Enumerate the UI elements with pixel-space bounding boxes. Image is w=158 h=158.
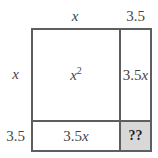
cell-unknown: ?? <box>119 120 150 150</box>
row-header-3-5-text: 3.5 <box>6 128 25 144</box>
column-header-3-5-text: 3.5 <box>126 8 145 24</box>
row-header-3-5: 3.5 <box>0 120 31 152</box>
cell-x-squared-base: x <box>70 67 77 83</box>
cell-top-right-text: 3.5x <box>123 67 148 84</box>
cell-bottom-left-coefficient: 3.5 <box>63 128 82 144</box>
cell-bottom-left: 3.5x <box>33 120 119 150</box>
column-header-x-text: x <box>72 8 79 24</box>
cell-x-squared: x2 <box>33 30 119 120</box>
cell-unknown-text: ?? <box>129 128 143 144</box>
column-header-x: x <box>31 6 119 26</box>
cell-top-right: 3.5x <box>119 30 150 120</box>
column-header-3-5: 3.5 <box>119 6 152 26</box>
row-header-x: x <box>0 28 31 120</box>
cell-bottom-left-variable: x <box>82 128 89 144</box>
area-model-diagram: x 3.5 x 3.5 x2 3.5x 3.5x ?? <box>0 0 158 158</box>
cell-x-squared-text: x2 <box>70 67 82 84</box>
row-header-x-text: x <box>12 66 19 82</box>
cell-bottom-left-text: 3.5x <box>63 128 88 145</box>
cell-top-right-coefficient: 3.5 <box>123 67 142 83</box>
cell-top-right-variable: x <box>142 67 149 83</box>
cell-x-squared-exponent: 2 <box>77 65 82 76</box>
area-model-grid: x2 3.5x 3.5x ?? <box>31 28 152 152</box>
